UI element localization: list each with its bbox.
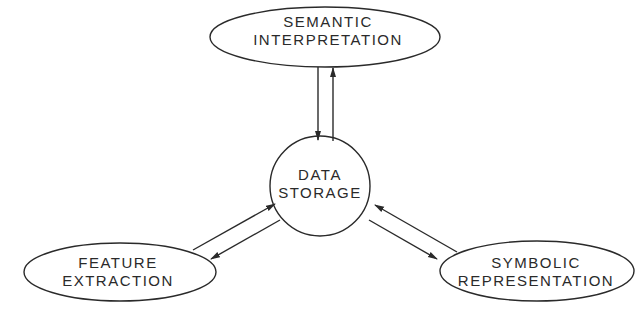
- feature-extraction-label: FEATURE EXTRACTION: [62, 254, 174, 290]
- semantic-line1: SEMANTIC: [253, 13, 403, 31]
- storage-line1: DATA: [278, 166, 362, 184]
- symbolic-line1: SYMBOLIC: [458, 254, 614, 272]
- storage-line2: STORAGE: [278, 184, 362, 202]
- feature-line1: FEATURE: [62, 254, 174, 272]
- semantic-line2: INTERPRETATION: [253, 31, 403, 49]
- semantic-interpretation-label: SEMANTIC INTERPRETATION: [253, 13, 403, 49]
- feature-line2: EXTRACTION: [62, 272, 174, 290]
- edge-storage-to-feature: [211, 220, 280, 259]
- edge-feature-to-storage: [193, 204, 275, 250]
- symbolic-representation-label: SYMBOLIC REPRESENTATION: [458, 254, 614, 290]
- edge-symbolic-to-storage: [375, 205, 457, 252]
- edge-storage-to-symbolic: [369, 220, 437, 259]
- data-storage-label: DATA STORAGE: [278, 166, 362, 202]
- symbolic-line2: REPRESENTATION: [458, 272, 614, 290]
